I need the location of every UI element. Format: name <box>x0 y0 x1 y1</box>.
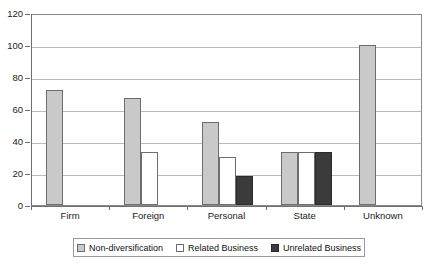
legend-swatch-icon <box>271 244 279 252</box>
plot-area <box>31 14 422 206</box>
y-axis-tick-label: 100 <box>7 41 23 51</box>
x-axis-tick-label: State <box>294 210 316 221</box>
bar <box>315 152 332 205</box>
x-axis-tick-label: Foreign <box>132 210 164 221</box>
chart-title-cutoff <box>70 0 370 5</box>
legend-item-label: Non-diversification <box>89 243 163 253</box>
y-axis-tick-label: 20 <box>12 169 23 179</box>
x-axis-tick-mark <box>109 206 110 210</box>
chart-legend: Non-diversification Related Business Unr… <box>73 238 365 257</box>
bar <box>219 157 236 205</box>
bar <box>46 90 63 205</box>
y-axis-tick-label: 120 <box>7 9 23 19</box>
legend-swatch-icon <box>77 244 85 252</box>
legend-item-label: Related Business <box>188 243 258 253</box>
y-axis-labels: 020406080100120 <box>0 0 31 220</box>
y-axis-tick-label: 60 <box>12 105 23 115</box>
x-axis-tick-mark <box>31 206 32 210</box>
legend-item-label: Unrelated Business <box>283 243 361 253</box>
bar <box>298 152 315 205</box>
x-axis-tick-label: Unknown <box>363 210 403 221</box>
bar <box>281 152 298 205</box>
y-axis-tick-mark <box>25 206 30 207</box>
y-axis-tick-label: 0 <box>18 201 23 211</box>
y-axis-tick-mark <box>25 14 30 15</box>
x-axis-tick-mark <box>344 206 345 210</box>
y-axis-tick-label: 80 <box>12 73 23 83</box>
bar <box>124 98 141 205</box>
bar <box>236 176 253 205</box>
x-axis-tick-mark <box>266 206 267 210</box>
bar <box>202 122 219 205</box>
legend-swatch-icon <box>176 244 184 252</box>
x-axis-tick-mark <box>187 206 188 210</box>
y-axis-tick-mark <box>25 78 30 79</box>
bar <box>141 152 158 205</box>
x-axis-tick-label: Personal <box>208 210 246 221</box>
y-axis-tick-label: 40 <box>12 137 23 147</box>
chart-figure: 020406080100120 FirmForeignPersonalState… <box>0 0 436 265</box>
y-axis-tick-mark <box>25 46 30 47</box>
legend-item: Non-diversification <box>77 243 163 253</box>
y-axis-tick-mark <box>25 110 30 111</box>
x-axis-tick-label: Firm <box>61 210 80 221</box>
x-axis-tick-mark <box>422 206 423 210</box>
bar <box>359 45 376 205</box>
y-axis-tick-mark <box>25 174 30 175</box>
x-axis-line <box>31 206 423 207</box>
legend-item: Related Business <box>176 243 258 253</box>
y-axis-line <box>31 14 32 207</box>
legend-item: Unrelated Business <box>271 243 361 253</box>
y-axis-tick-mark <box>25 142 30 143</box>
